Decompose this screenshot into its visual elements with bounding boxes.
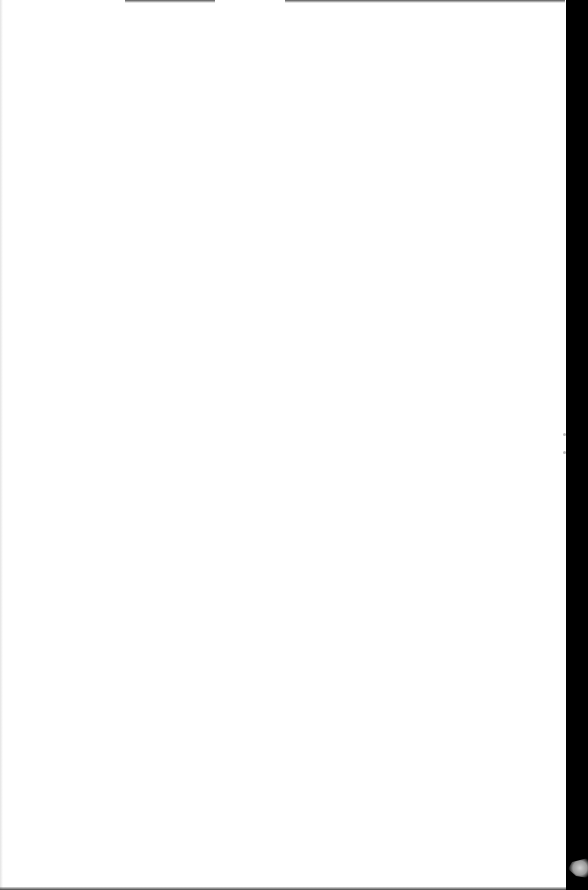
scanner-background-band [566, 0, 588, 890]
left-page-edge [0, 0, 3, 890]
blank-scanned-page [0, 0, 566, 890]
top-scan-shadow [285, 0, 565, 3]
edge-speck [563, 433, 566, 436]
edge-speck [563, 451, 566, 454]
top-scan-shadow [125, 0, 215, 3]
